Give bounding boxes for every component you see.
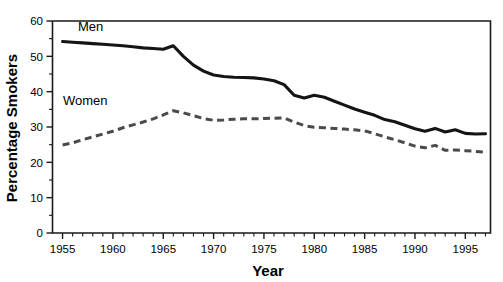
- x-tick-label: 1990: [402, 243, 428, 255]
- x-tick-label: 1960: [100, 243, 126, 255]
- x-tick-label: 1955: [50, 243, 76, 255]
- series-line-men: [63, 41, 486, 134]
- x-tick-label: 1970: [201, 243, 227, 255]
- axis-spines: [53, 21, 491, 233]
- chart-canvas: 0102030405060 19551960196519701975198019…: [0, 0, 503, 282]
- smoking-trend-chart: 0102030405060 19551960196519701975198019…: [0, 0, 503, 282]
- x-tick-label: 1985: [352, 243, 378, 255]
- y-tick-label: 50: [30, 51, 43, 63]
- x-tick-label: 1965: [150, 243, 176, 255]
- series-annotation-men: Men: [78, 19, 103, 34]
- x-axis-title: Year: [252, 262, 284, 279]
- y-tick-label: 30: [30, 121, 43, 133]
- y-axis-ticks: [47, 21, 53, 233]
- y-tick-label: 10: [30, 192, 43, 204]
- x-tick-label: 1975: [251, 243, 277, 255]
- data-series-group: [63, 41, 486, 152]
- y-axis-tick-labels: 0102030405060: [30, 15, 43, 239]
- series-annotation-women: Women: [63, 93, 108, 108]
- x-axis-ticks: [63, 233, 486, 239]
- y-tick-label: 60: [30, 15, 43, 27]
- y-tick-label: 20: [30, 157, 43, 169]
- y-axis-title: Percentage Smokers: [3, 54, 20, 202]
- y-tick-label: 40: [30, 86, 43, 98]
- y-tick-label: 0: [37, 227, 43, 239]
- plot-frame: [53, 21, 491, 233]
- x-tick-label: 1995: [453, 243, 479, 255]
- x-axis-tick-labels: 195519601965197019751980198519901995: [50, 243, 478, 255]
- x-tick-label: 1980: [301, 243, 327, 255]
